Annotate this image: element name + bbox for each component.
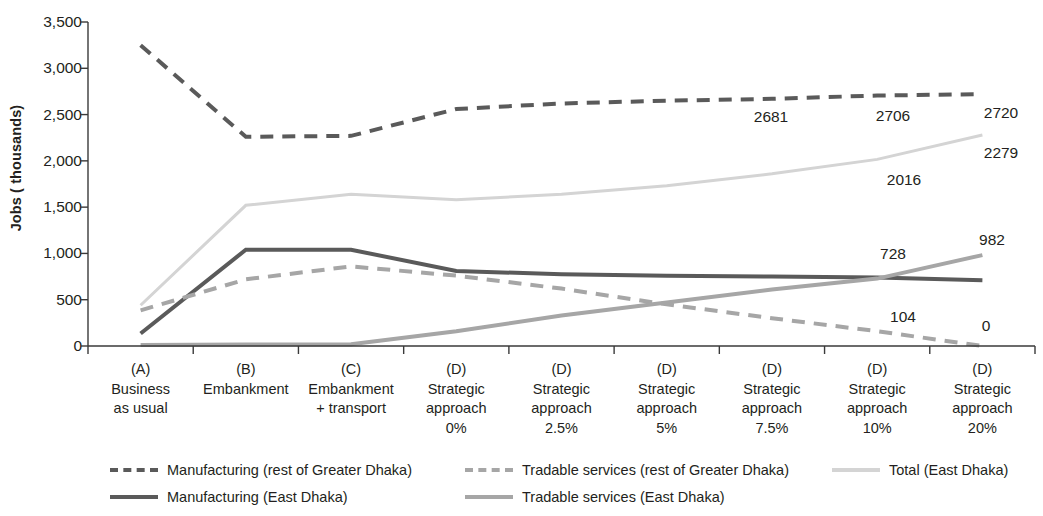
- series-line: [141, 255, 983, 345]
- legend-item-label: Total (East Dhaka): [889, 462, 1008, 478]
- x-axis-tick-label-line: (A): [88, 360, 193, 380]
- legend-line-glyph: [110, 495, 158, 499]
- legend-item[interactable]: Manufacturing (East Dhaka): [110, 489, 348, 505]
- x-axis-tick-label-line: (D): [614, 360, 719, 380]
- series-line: [141, 250, 983, 334]
- x-axis-tick-label: (B)Embankment: [193, 360, 298, 399]
- legend-line-swatch-icon: [832, 464, 880, 476]
- legend-line-glyph: [465, 495, 513, 499]
- legend-item-label: Tradable services (rest of Greater Dhaka…: [522, 462, 789, 478]
- x-axis-tick-label-line: Strategic: [930, 380, 1035, 400]
- data-value-label: 2681: [754, 108, 788, 126]
- x-axis-tick-label-line: Embankment: [298, 380, 403, 400]
- x-axis-tick-label-line: 0%: [404, 419, 509, 439]
- x-axis-tick-label: (D)Strategicapproach5%: [614, 360, 719, 438]
- x-axis-tick-label-line: 10%: [825, 419, 930, 439]
- x-axis-tick-label-line: (D): [930, 360, 1035, 380]
- x-axis-tick-label-line: approach: [404, 399, 509, 419]
- legend-line-glyph: [465, 468, 513, 472]
- data-value-label: 104: [890, 308, 916, 326]
- legend-line-swatch-icon: [465, 491, 513, 503]
- x-axis-tick-label-line: (D): [509, 360, 614, 380]
- legend-item-label: Manufacturing (rest of Greater Dhaka): [167, 462, 412, 478]
- x-axis-tick-label-line: (C): [298, 360, 403, 380]
- chart-legend: Manufacturing (rest of Greater Dhaka)Man…: [0, 462, 1043, 516]
- x-axis-tick-label-line: (D): [404, 360, 509, 380]
- data-value-label: 2016: [887, 171, 921, 189]
- x-axis-tick-label-line: Embankment: [193, 380, 298, 400]
- legend-item-label: Tradable services (East Dhaka): [522, 489, 725, 505]
- legend-line-swatch-icon: [110, 464, 158, 476]
- x-axis-tick-label: (A)Businessas usual: [88, 360, 193, 419]
- x-axis-tick-label: (D)Strategicapproach20%: [930, 360, 1035, 438]
- legend-item[interactable]: Total (East Dhaka): [832, 462, 1008, 478]
- jobs-line-chart: Jobs ( thousands) 05001,0001,5002,0002,5…: [0, 0, 1043, 516]
- x-axis-tick-label-line: approach: [509, 399, 614, 419]
- legend-line-swatch-icon: [465, 464, 513, 476]
- x-axis-tick-label-line: 20%: [930, 419, 1035, 439]
- x-axis-tick-label-line: Strategic: [719, 380, 824, 400]
- x-axis-tick-label-line: Strategic: [404, 380, 509, 400]
- legend-item[interactable]: Tradable services (rest of Greater Dhaka…: [465, 462, 789, 478]
- x-axis-tick-label-line: (B): [193, 360, 298, 380]
- x-axis-tick-label-line: approach: [825, 399, 930, 419]
- x-axis-tick-label-line: approach: [719, 399, 824, 419]
- x-axis-tick-label: (D)Strategicapproach10%: [825, 360, 930, 438]
- x-axis-tick-label: (C)Embankment+ transport: [298, 360, 403, 419]
- x-axis-tick-label: (D)Strategicapproach2.5%: [509, 360, 614, 438]
- data-value-label: 2720: [984, 104, 1018, 122]
- x-axis-tick-label-line: approach: [614, 399, 719, 419]
- legend-line-swatch-icon: [110, 491, 158, 503]
- data-value-label: 2706: [876, 107, 910, 125]
- legend-item[interactable]: Manufacturing (rest of Greater Dhaka): [110, 462, 412, 478]
- x-axis-tick-label-line: (D): [825, 360, 930, 380]
- x-axis-tick-label: (D)Strategicapproach0%: [404, 360, 509, 438]
- x-axis-tick-label-line: Business: [88, 380, 193, 400]
- x-axis-tick-label-line: 2.5%: [509, 419, 614, 439]
- x-axis-tick-label-line: Strategic: [614, 380, 719, 400]
- x-axis-tick-label-line: 7.5%: [719, 419, 824, 439]
- x-axis-tick-label-line: 5%: [614, 419, 719, 439]
- x-axis-tick-label-line: Strategic: [825, 380, 930, 400]
- legend-item[interactable]: Tradable services (East Dhaka): [465, 489, 725, 505]
- x-axis-tick-label-line: Strategic: [509, 380, 614, 400]
- legend-item-label: Manufacturing (East Dhaka): [167, 489, 348, 505]
- x-axis-tick-label-line: + transport: [298, 399, 403, 419]
- data-value-label: 982: [979, 231, 1005, 249]
- x-axis-tick-label: (D)Strategicapproach7.5%: [719, 360, 824, 438]
- data-value-label: 0: [982, 317, 991, 335]
- series-line: [141, 45, 983, 137]
- x-axis-tick-label-line: as usual: [88, 399, 193, 419]
- x-axis-tick-label-line: approach: [930, 399, 1035, 419]
- legend-line-glyph: [110, 468, 158, 472]
- x-axis-tick-label-line: (D): [719, 360, 824, 380]
- legend-line-glyph: [832, 468, 880, 472]
- data-value-label: 728: [880, 245, 906, 263]
- data-value-label: 2279: [984, 144, 1018, 162]
